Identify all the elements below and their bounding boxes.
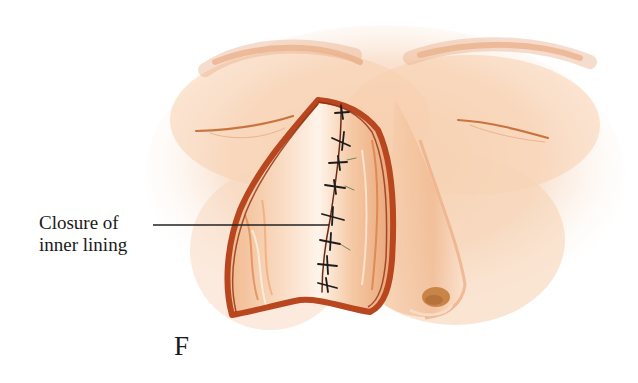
callout-label: Closure of inner lining [39, 212, 127, 256]
callout-line-1: Closure of [39, 212, 127, 234]
nasal-reconstruction-drawing [0, 0, 638, 383]
panel-letter: F [174, 331, 189, 362]
callout-line-2: inner lining [39, 234, 127, 256]
medical-illustration: Closure of inner lining F [0, 0, 638, 383]
